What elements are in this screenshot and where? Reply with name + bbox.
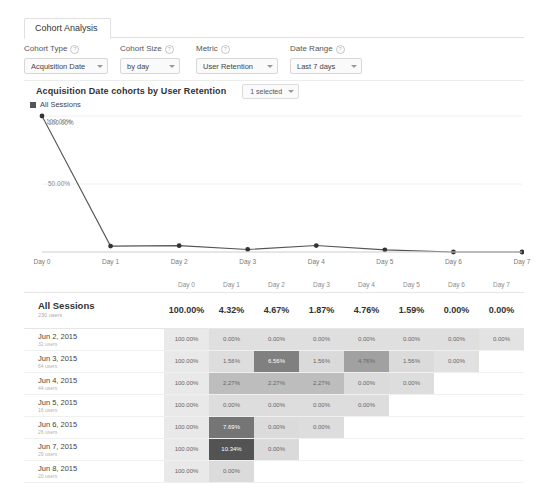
cell-value: 0.00% — [209, 329, 254, 350]
table-cell — [299, 461, 344, 483]
table-row[interactable]: Jun 5, 201516 users100.00%0.00%0.00%0.00… — [24, 395, 524, 417]
cell-value: 1.56% — [299, 351, 344, 372]
table-cell: 2.27% — [254, 373, 299, 395]
cell-value: 100.00% — [164, 417, 209, 438]
table-cell — [479, 351, 524, 373]
row-label-main: Jun 4, 2015 — [38, 376, 164, 385]
cell-value: 100.00% — [164, 373, 209, 394]
table-cell: 0.00% — [254, 329, 299, 351]
tab-cohort-analysis[interactable]: Cohort Analysis — [24, 18, 111, 39]
cohort-size-label-text: Cohort Size — [120, 44, 162, 54]
controls-bar: Cohort Type ? Acquisition Date Cohort Si… — [24, 44, 524, 76]
table-row[interactable]: Jun 3, 201564 users100.00%1.56%6.56%1.56… — [24, 351, 524, 373]
cell-value: 0.00% — [299, 329, 344, 350]
table-cell: 0.00% — [344, 395, 389, 417]
table-cell — [389, 417, 434, 439]
table-cell: 100.00% — [164, 395, 209, 417]
x-axis-label: Day 2 — [159, 258, 199, 265]
row-label-all-sessions: All Sessions 230 users — [24, 293, 164, 329]
cell-value: 7.69% — [209, 417, 254, 438]
table-cell — [389, 439, 434, 461]
help-icon[interactable]: ? — [165, 45, 174, 54]
total-cell: 4.67% — [254, 293, 299, 329]
table-cell: 0.00% — [209, 329, 254, 351]
table-header-day-2[interactable]: Day 2 — [254, 276, 299, 293]
table-cell: 1.56% — [389, 351, 434, 373]
table-row[interactable]: Jun 4, 201544 users100.00%2.27%2.27%2.27… — [24, 373, 524, 395]
cohort-table-element: Day 0Day 1Day 2Day 3Day 4Day 5Day 6Day 7… — [24, 276, 524, 483]
x-axis-label: Day 3 — [228, 258, 268, 265]
row-label: Jun 5, 201516 users — [24, 395, 164, 417]
table-cell: 0.00% — [254, 439, 299, 461]
table-header-day-5[interactable]: Day 5 — [389, 276, 434, 293]
table-header-day-3[interactable]: Day 3 — [299, 276, 344, 293]
cell-value — [479, 461, 524, 482]
row-label: Jun 4, 201544 users — [24, 373, 164, 395]
row-label-sub: 20 users — [38, 473, 164, 480]
table-row[interactable]: Jun 8, 201520 users100.00%0.00% — [24, 461, 524, 483]
row-label-main: Jun 5, 2015 — [38, 398, 164, 407]
cell-value: 0.00% — [344, 395, 389, 416]
table-row[interactable]: Jun 2, 201532 users100.00%0.00%0.00%0.00… — [24, 329, 524, 351]
row-label-main: Jun 2, 2015 — [38, 332, 164, 341]
cohort-selector[interactable]: 1 selected — [242, 84, 299, 99]
cohort-size-value: by day — [127, 62, 149, 71]
help-icon[interactable]: ? — [336, 45, 345, 54]
row-label-sub: 16 users — [38, 407, 164, 414]
row-label: Jun 6, 201526 users — [24, 417, 164, 439]
cell-value: 2.27% — [209, 373, 254, 394]
table-cell — [479, 395, 524, 417]
table-row[interactable]: Jun 6, 201526 users100.00%7.69%0.00%0.00… — [24, 417, 524, 439]
cell-value: 1.56% — [209, 351, 254, 372]
cell-value: 0.00% — [434, 351, 479, 372]
table-header-day-4[interactable]: Day 4 — [344, 276, 389, 293]
cell-value: 0.00% — [389, 373, 434, 394]
control-cohort-size: Cohort Size ? by day — [120, 44, 182, 74]
row-label-main: All Sessions — [38, 300, 164, 311]
cell-value: 0.00% — [389, 329, 434, 350]
help-icon[interactable]: ? — [221, 45, 230, 54]
cell-value: 0.00% — [209, 395, 254, 416]
table-header-day-0[interactable]: Day 0 — [164, 276, 209, 293]
metric-select[interactable]: User Retention — [196, 58, 278, 74]
table-row-all-sessions[interactable]: All Sessions 230 users 100.00% 4.32% 4.6… — [24, 293, 524, 329]
cell-value — [434, 439, 479, 460]
cohort-size-select[interactable]: by day — [120, 58, 180, 74]
cell-value: 0.00% — [254, 439, 299, 460]
table-cell: 1.56% — [209, 351, 254, 373]
row-label: Jun 8, 201520 users — [24, 461, 164, 483]
table-header-day-1[interactable]: Day 1 — [209, 276, 254, 293]
row-label: Jun 3, 201564 users — [24, 351, 164, 373]
table-header-day-7[interactable]: Day 7 — [479, 276, 524, 293]
chevron-down-icon — [351, 65, 357, 68]
date-range-select[interactable]: Last 7 days — [290, 58, 362, 74]
cell-value: 0.00% — [344, 329, 389, 350]
cell-value — [479, 351, 524, 372]
table-cell: 0.00% — [209, 461, 254, 483]
date-range-label-text: Date Range — [290, 44, 333, 54]
table-cell: 1.56% — [299, 351, 344, 373]
total-cell: 100.00% — [164, 293, 209, 329]
cell-value — [479, 395, 524, 416]
cohort-table: Day 0Day 1Day 2Day 3Day 4Day 5Day 6Day 7… — [24, 276, 524, 483]
table-cell: 0.00% — [254, 395, 299, 417]
table-cell — [299, 439, 344, 461]
row-label-sub: 32 users — [38, 341, 164, 348]
table-cell: 0.00% — [434, 351, 479, 373]
cohort-type-select[interactable]: Acquisition Date — [24, 58, 108, 74]
chart-point-label: 100.00% — [46, 118, 72, 125]
help-icon[interactable]: ? — [70, 45, 79, 54]
x-axis-label: Day 5 — [365, 258, 405, 265]
table-row[interactable]: Jun 7, 201529 users100.00%10.34%0.00% — [24, 439, 524, 461]
table-cell: 0.00% — [344, 373, 389, 395]
table-header-day-6[interactable]: Day 6 — [434, 276, 479, 293]
table-cell: 4.76% — [344, 351, 389, 373]
cell-value — [299, 439, 344, 460]
cell-value — [389, 417, 434, 438]
table-cell — [344, 439, 389, 461]
table-header-blank — [24, 276, 164, 293]
metric-label: Metric ? — [196, 44, 276, 54]
total-cell: 4.32% — [209, 293, 254, 329]
table-cell: 0.00% — [299, 395, 344, 417]
cohort-table-body: All Sessions 230 users 100.00% 4.32% 4.6… — [24, 293, 524, 483]
